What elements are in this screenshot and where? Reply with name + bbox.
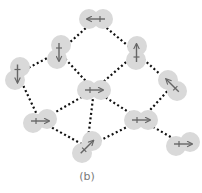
node-upper-right — [126, 36, 147, 70]
node-circle — [5, 70, 25, 90]
node-circle — [37, 109, 57, 129]
node-right — [158, 70, 187, 101]
node-upper-left — [47, 35, 71, 69]
node-circle — [82, 131, 102, 151]
node-circle — [47, 49, 67, 69]
node-circle — [180, 132, 200, 152]
node-circle — [167, 81, 187, 101]
node-center — [77, 80, 111, 100]
node-lower-right — [166, 132, 200, 156]
node-lower-left — [23, 109, 57, 133]
node-mid-right — [124, 110, 158, 130]
network-diagram — [0, 0, 202, 193]
node-left — [5, 57, 30, 90]
figure-caption: (b) — [76, 170, 98, 183]
nodes-layer — [5, 9, 200, 163]
node-top — [79, 9, 113, 29]
node-bottom — [72, 131, 102, 163]
